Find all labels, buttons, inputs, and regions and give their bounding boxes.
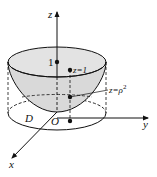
surface-label-z: z=: [108, 85, 119, 95]
height-one-label: 1: [48, 56, 54, 68]
origin-label: O: [51, 115, 59, 127]
surface-label: z=ρ2: [108, 83, 127, 95]
point-plane: [68, 68, 72, 72]
z-axis-label: z: [47, 8, 53, 20]
x-axis-label: x: [8, 158, 14, 170]
surface-label-exp: 2: [123, 83, 127, 91]
region-D-label: D: [24, 112, 33, 124]
plane-label: z=1: [72, 65, 87, 75]
y-axis-label: y: [142, 118, 148, 130]
point-surface: [68, 95, 72, 99]
paraboloid-diagram: z y x O D 1 z=1 z=ρ2: [0, 0, 157, 177]
point-height-one: [55, 60, 59, 64]
point-projection: [68, 119, 72, 123]
